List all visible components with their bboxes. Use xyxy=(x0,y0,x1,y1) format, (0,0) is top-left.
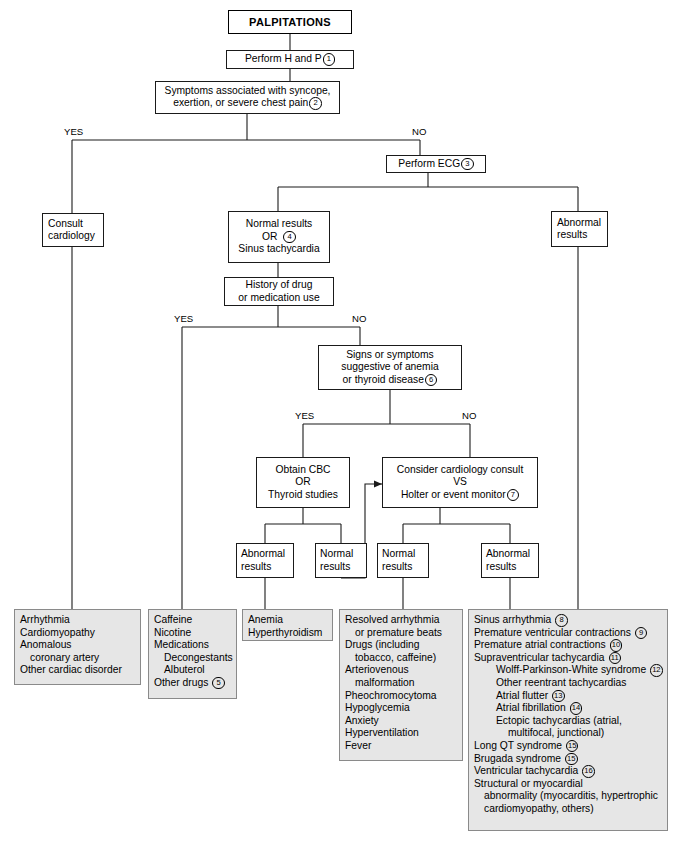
outcome-line: Supraventricular tachycardia11 xyxy=(474,652,621,665)
node-consider-cardiology-consult[interactable]: Consider cardiology consult VS Holter or… xyxy=(382,457,538,508)
reference-marker: 16 xyxy=(582,765,595,778)
branch-label-drug-yes: YES xyxy=(174,313,193,324)
outcome-line: Drugs (including xyxy=(345,639,419,652)
node-history-drug-line1: History of drug xyxy=(246,279,313,291)
node-monitor-normal-results[interactable]: Normal results xyxy=(377,543,429,578)
outcome-line: Ventricular tachycardia16 xyxy=(474,765,595,778)
node-signs-anemia-line1: Signs or symptoms xyxy=(346,349,434,361)
node-symptoms-line2: exertion, or severe chest pain2 xyxy=(173,97,322,110)
outcome-line: Premature ventricular contractions9 xyxy=(474,627,647,640)
node-abnormal-results-ecg[interactable]: Abnormal results xyxy=(551,211,608,247)
reference-marker: 11 xyxy=(609,652,622,665)
diagram-title: PALPITATIONS xyxy=(228,10,352,34)
node-normal-results-line1: Normal results xyxy=(246,218,312,230)
outcome-line: Arteriovenous xyxy=(345,664,409,677)
node-consider-consult-line2: VS xyxy=(453,476,467,488)
outcome-line: Hyperthyroidism xyxy=(248,627,322,640)
node-signs-anemia-line2: suggestive of anemia xyxy=(341,361,438,373)
node-signs-anemia-thyroid[interactable]: Signs or symptoms suggestive of anemia o… xyxy=(318,345,462,390)
branch-label-anemia-no: NO xyxy=(462,410,476,421)
diagram-title-text: PALPITATIONS xyxy=(249,16,331,28)
node-normal-results-ecg[interactable]: Normal results OR4 Sinus tachycardia xyxy=(228,211,330,263)
outcome-line: Anxiety xyxy=(345,715,379,728)
outcome-line: Anemia xyxy=(248,614,283,627)
outcome-line: Other drugs5 xyxy=(154,677,225,690)
node-monitor-abnormal-line2: results xyxy=(486,561,516,573)
outcome-line: malformation xyxy=(345,677,415,690)
outcome-line: abnormality (myocarditis, hypertrophic xyxy=(474,790,658,803)
node-obtain-cbc-line1: Obtain CBC xyxy=(276,464,331,476)
reference-marker: 6 xyxy=(425,374,438,387)
node-monitor-abnormal-results[interactable]: Abnormal results xyxy=(481,543,539,578)
node-history-drug-line2: or medication use xyxy=(238,292,319,304)
node-perform-h-and-p[interactable]: Perform H and P1 xyxy=(226,50,354,69)
branch-label-drug-no: NO xyxy=(352,313,366,324)
outcome-cardiac-causes[interactable]: ArrhythmiaCardiomyopathyAnomalouscoronar… xyxy=(14,609,141,685)
reference-marker: 4 xyxy=(283,231,296,244)
node-cbc-normal-results[interactable]: Normal results xyxy=(315,543,367,578)
reference-marker: 14 xyxy=(570,702,583,715)
node-history-of-drug-use[interactable]: History of drug or medication use xyxy=(224,277,334,306)
outcome-benign-causes[interactable]: Resolved arrhythmiaor premature beatsDru… xyxy=(339,609,463,761)
outcome-line: Premature atrial contractions10 xyxy=(474,639,622,652)
reference-marker: 10 xyxy=(610,639,623,652)
node-normal-results-line2: OR4 xyxy=(262,231,296,244)
node-consult-cardiology[interactable]: Consult cardiology xyxy=(42,213,104,247)
node-cbc-abnormal-results[interactable]: Abnormal results xyxy=(236,543,294,578)
reference-marker: 7 xyxy=(507,489,520,502)
reference-marker: 15 xyxy=(566,740,579,753)
node-consult-cardiology-line2: cardiology xyxy=(48,230,95,242)
node-obtain-cbc-thyroid[interactable]: Obtain CBC OR Thyroid studies xyxy=(256,457,350,508)
branch-label-symptoms-yes: YES xyxy=(64,126,83,137)
outcome-line: Anomalous xyxy=(20,639,72,652)
node-signs-anemia-line3: or thyroid disease6 xyxy=(343,374,438,387)
outcome-line: cardiomyopathy, others) xyxy=(474,803,594,816)
node-abnormal-ecg-line2: results xyxy=(557,229,587,241)
outcome-line: Long QT syndrome15 xyxy=(474,740,578,753)
node-cbc-abnormal-line1: Abnormal xyxy=(241,548,285,560)
node-obtain-cbc-line2: OR xyxy=(295,476,310,488)
outcome-drug-causes[interactable]: CaffeineNicotineMedicationsDecongestants… xyxy=(148,609,237,699)
branch-label-symptoms-no: NO xyxy=(412,126,426,137)
outcome-line: Resolved arrhythmia xyxy=(345,614,439,627)
outcome-line: Structural or myocardial xyxy=(474,778,583,791)
outcome-line: Hypoglycemia xyxy=(345,702,410,715)
node-consider-consult-line1: Consider cardiology consult xyxy=(397,464,524,476)
outcome-line: Other reentrant tachycardias xyxy=(474,677,627,690)
outcome-line: Hyperventilation xyxy=(345,727,419,740)
outcome-line: Decongestants xyxy=(154,652,233,665)
outcome-line: Cardiomyopathy xyxy=(20,627,95,640)
outcome-line: Nicotine xyxy=(154,627,191,640)
reference-marker: 2 xyxy=(309,97,322,110)
reference-marker: 8 xyxy=(555,614,568,627)
outcome-line: coronary artery xyxy=(20,652,99,665)
reference-marker: 3 xyxy=(461,158,474,171)
reference-marker: 12 xyxy=(650,664,663,677)
node-monitor-normal-line1: Normal xyxy=(382,548,415,560)
reference-marker: 9 xyxy=(635,627,648,640)
node-cbc-normal-line2: results xyxy=(320,561,350,573)
outcome-line: Arrhythmia xyxy=(20,614,70,627)
outcome-anemia-thyroid-causes[interactable]: AnemiaHyperthyroidism xyxy=(242,609,333,641)
outcome-line: Atrial flutter13 xyxy=(474,690,565,703)
node-perform-ecg-label: Perform ECG3 xyxy=(398,158,473,171)
outcome-line: Fever xyxy=(345,740,371,753)
outcome-line: Caffeine xyxy=(154,614,192,627)
flowchart-canvas: PALPITATIONS Perform H and P1 Symptoms a… xyxy=(0,0,680,847)
node-perform-ecg[interactable]: Perform ECG3 xyxy=(386,155,486,173)
node-symptoms-line1: Symptoms associated with syncope, xyxy=(165,85,331,97)
outcome-line: or premature beats xyxy=(345,627,442,640)
node-normal-results-line3: Sinus tachycardia xyxy=(238,243,319,255)
outcome-line: Atrial fibrillation14 xyxy=(474,702,582,715)
outcome-line: Sinus arrhythmia8 xyxy=(474,614,568,627)
outcome-line: Other cardiac disorder xyxy=(20,664,122,677)
node-symptoms-associated[interactable]: Symptoms associated with syncope, exerti… xyxy=(155,81,340,114)
node-monitor-normal-line2: results xyxy=(382,561,412,573)
outcome-line: Wolff-Parkinson-White syndrome12 xyxy=(474,664,663,677)
outcome-line: Pheochromocytoma xyxy=(345,690,437,703)
outcome-arrhythmia-causes[interactable]: Sinus arrhythmia8Premature ventricular c… xyxy=(468,609,668,831)
node-monitor-abnormal-line1: Abnormal xyxy=(486,548,530,560)
node-consider-consult-line3: Holter or event monitor7 xyxy=(401,489,519,502)
outcome-line: Brugada syndrome15 xyxy=(474,753,578,766)
node-consult-cardiology-line1: Consult xyxy=(48,218,83,230)
